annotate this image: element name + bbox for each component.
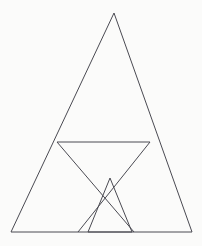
diagonal-left-to-right-line xyxy=(57,142,134,232)
figure-canvas xyxy=(0,0,202,246)
nested-triangles-figure xyxy=(0,0,202,246)
